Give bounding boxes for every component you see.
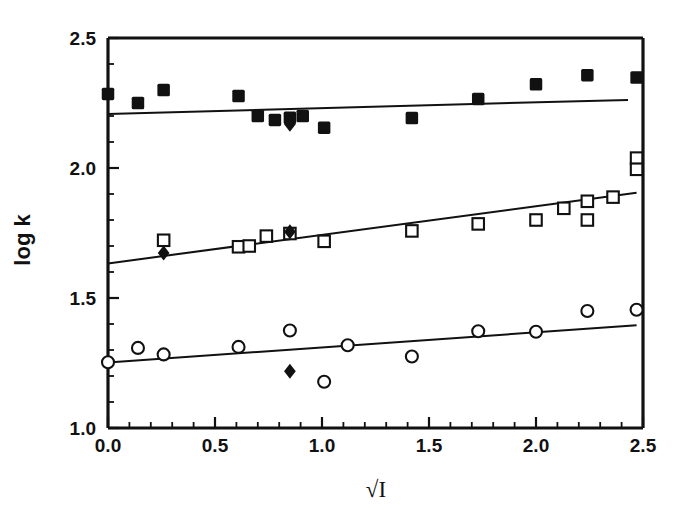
data-point-open-circle bbox=[530, 326, 542, 338]
data-point-filled-square bbox=[630, 71, 643, 84]
x-tick-label: 2.5 bbox=[630, 435, 657, 456]
data-point-filled-square bbox=[269, 114, 282, 127]
data-point-open-square bbox=[472, 218, 484, 230]
data-point-open-circle bbox=[631, 304, 643, 316]
data-point-open-circle bbox=[472, 325, 484, 337]
fit-lines bbox=[108, 100, 637, 363]
y-tick-label: 1.0 bbox=[70, 418, 96, 439]
data-point-open-square bbox=[530, 214, 542, 226]
y-tick-label: 2.5 bbox=[70, 28, 97, 49]
scatter-plot: 0.00.51.01.52.02.5 1.01.52.02.5 log k √I bbox=[0, 0, 674, 517]
data-point-open-square bbox=[243, 240, 255, 252]
x-tick-label: 2.0 bbox=[523, 435, 549, 456]
data-point-filled-square bbox=[406, 112, 419, 125]
series-lower-series-open-circles bbox=[102, 304, 643, 388]
plot-frame bbox=[108, 38, 643, 428]
x-tick-label: 1.5 bbox=[416, 435, 443, 456]
data-point-filled-diamond bbox=[158, 246, 170, 261]
data-point-open-circle bbox=[406, 351, 418, 363]
data-point-filled-square bbox=[252, 110, 264, 123]
y-axis-tick-labels: 1.01.52.02.5 bbox=[70, 28, 97, 439]
x-axis-title: √I bbox=[366, 477, 386, 502]
series-middle-series-open-squares bbox=[158, 152, 642, 252]
upper-fit-line bbox=[108, 100, 628, 114]
axis-titles: log k √I bbox=[10, 214, 386, 502]
data-point-open-circle bbox=[132, 342, 144, 354]
data-point-open-circle bbox=[581, 305, 593, 317]
x-tick-label: 1.0 bbox=[309, 435, 335, 456]
data-point-open-square bbox=[582, 196, 594, 208]
data-point-open-square bbox=[406, 225, 418, 237]
y-axis-title: log k bbox=[10, 214, 35, 266]
lower-fit-line bbox=[108, 325, 637, 362]
data-point-open-square bbox=[318, 236, 330, 248]
data-point-open-circle bbox=[158, 348, 170, 360]
series-lower-series-filled-diamonds bbox=[284, 364, 296, 379]
y-tick-label: 1.5 bbox=[70, 288, 97, 309]
data-point-filled-diamond bbox=[284, 364, 296, 379]
data-point-filled-square bbox=[132, 97, 145, 110]
data-point-open-circle bbox=[233, 341, 245, 353]
x-tick-label: 0.0 bbox=[95, 435, 121, 456]
data-point-filled-square bbox=[157, 84, 170, 97]
data-point-filled-square bbox=[318, 121, 331, 134]
data-point-filled-square bbox=[232, 90, 245, 103]
data-point-open-square bbox=[631, 152, 643, 164]
data-point-open-circle bbox=[318, 376, 330, 388]
figure-container: 0.00.51.01.52.02.5 1.01.52.02.5 log k √I bbox=[0, 0, 674, 517]
data-point-filled-square bbox=[296, 110, 309, 123]
data-point-filled-square bbox=[530, 78, 543, 91]
data-point-filled-square bbox=[102, 88, 115, 101]
data-point-open-square bbox=[582, 214, 594, 226]
data-point-filled-square bbox=[472, 93, 485, 106]
x-axis-tick-labels: 0.00.51.01.52.02.5 bbox=[95, 435, 657, 456]
y-tick-label: 2.0 bbox=[70, 158, 96, 179]
data-point-open-square bbox=[158, 235, 170, 247]
data-point-open-circle bbox=[342, 339, 354, 351]
data-point-open-square bbox=[631, 164, 643, 176]
data-point-filled-square bbox=[581, 69, 594, 82]
series-middle-series-filled-diamonds bbox=[158, 224, 296, 260]
x-tick-label: 0.5 bbox=[202, 435, 229, 456]
data-point-open-circle bbox=[284, 325, 296, 337]
data-point-open-square bbox=[607, 191, 619, 203]
data-point-open-square bbox=[261, 230, 273, 242]
axis-ticks bbox=[108, 38, 643, 428]
data-point-open-circle bbox=[102, 356, 114, 368]
data-point-open-square bbox=[558, 203, 570, 215]
